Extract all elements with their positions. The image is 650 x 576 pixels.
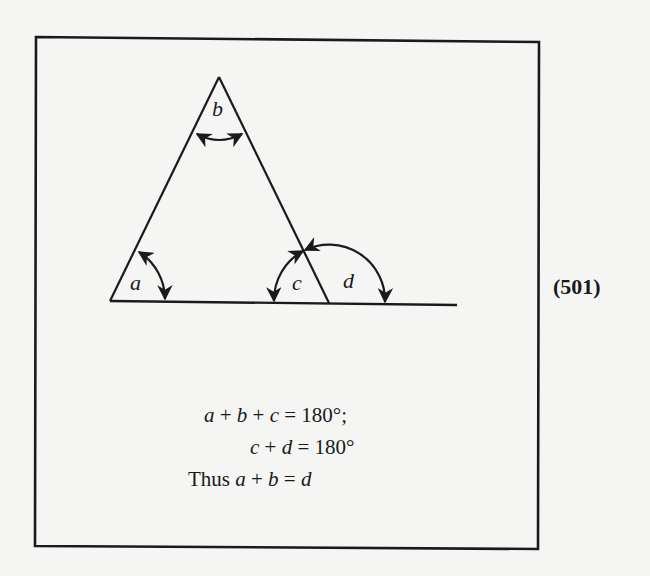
geometry-figure: b a c d (501) a + b + c = 180°; c + d = … <box>0 0 650 576</box>
figure-number: (501) <box>553 276 601 298</box>
eq3-var-b: b <box>268 467 279 491</box>
eq1-var-a: a <box>204 403 215 427</box>
eq1-op2: + <box>247 403 269 427</box>
angle-b-arc <box>197 134 242 140</box>
equation-sum-triangle: a + b + c = 180°; <box>204 405 347 426</box>
eq2-var-c: c <box>250 435 259 459</box>
equation-straight-line: c + d = 180° <box>250 437 354 458</box>
equation-conclusion: Thus a + b = d <box>188 469 311 490</box>
angle-label-a: a <box>130 272 141 294</box>
eq3-var-a: a <box>235 467 246 491</box>
angle-label-c: c <box>292 272 302 294</box>
eq2-rest: = 180° <box>292 435 354 459</box>
baseline <box>110 301 457 305</box>
eq1-rest: = 180°; <box>279 403 347 427</box>
eq2-op1: + <box>259 435 281 459</box>
eq1-var-b: b <box>237 403 248 427</box>
angle-label-b: b <box>212 98 223 120</box>
eq3-prefix: Thus <box>188 467 235 491</box>
eq3-var-d: d <box>301 467 312 491</box>
angle-label-d: d <box>343 270 354 292</box>
triangle-left-side <box>110 77 219 301</box>
triangle-right-side <box>219 77 329 303</box>
eq1-var-c: c <box>270 403 279 427</box>
eq2-var-d: d <box>282 435 293 459</box>
eq3-op1: + <box>246 467 268 491</box>
eq3-op2: = <box>279 467 301 491</box>
angle-a-arc <box>139 252 165 299</box>
eq1-op1: + <box>215 403 237 427</box>
